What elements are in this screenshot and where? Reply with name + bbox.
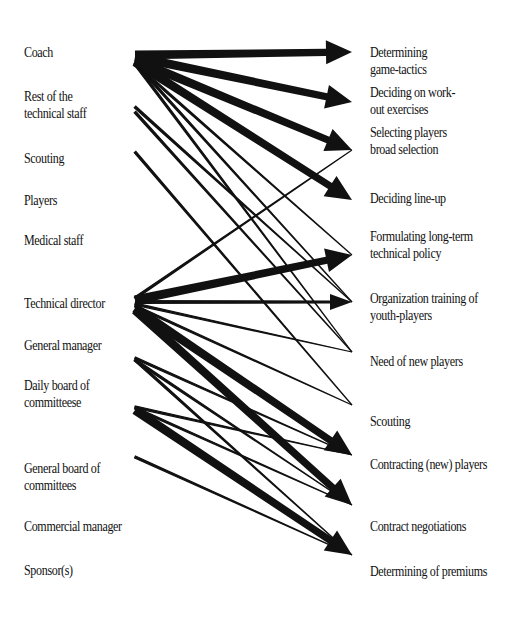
influence-arrows	[0, 0, 513, 618]
arrow-rest_technical_staff-to-new_players	[134, 111, 352, 352]
arrow-general_manager-to-contracting	[135, 357, 352, 455]
arrow-daily_board-to-contract_negotiations	[135, 407, 352, 505]
